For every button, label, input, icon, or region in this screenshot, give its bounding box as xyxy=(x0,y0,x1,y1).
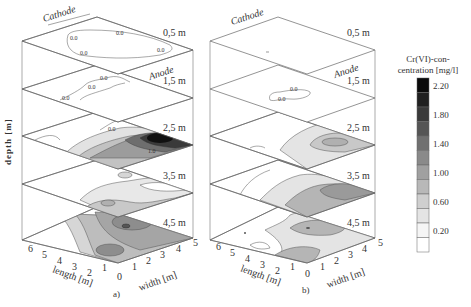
legend-tick-label: 0.60 xyxy=(433,197,449,207)
panel-a-label: a) xyxy=(113,289,120,299)
legend-title-line1: Cr(VI)-con- xyxy=(406,54,449,64)
legend-tick-label: 1.00 xyxy=(433,168,449,178)
svg-text:6: 6 xyxy=(216,241,221,252)
color-legend: Cr(VI)-con- centration [mg/l] 2.201.801.… xyxy=(398,54,459,252)
legend-swatch xyxy=(417,78,429,93)
legend-title-line2: centration [mg/l] xyxy=(398,65,459,75)
svg-text:4: 4 xyxy=(362,243,367,254)
panel-b-label: b) xyxy=(302,285,310,295)
panel-b: 0.0 0.0 Cathode Anode 0,5 m 1,5 m 2,5 m … xyxy=(210,6,383,295)
legend-swatch xyxy=(417,151,429,166)
plate-a-3-5m xyxy=(22,160,193,217)
legend-tick-label: 1.80 xyxy=(433,110,449,120)
legend-swatch xyxy=(417,107,429,122)
plate-b-2-5m xyxy=(210,112,375,169)
legend-swatch xyxy=(417,136,429,151)
cathode-label: Cathode xyxy=(41,3,77,24)
svg-text:4: 4 xyxy=(176,243,181,254)
legend-swatch xyxy=(417,238,429,253)
contour-label: 0.0 xyxy=(290,86,298,92)
svg-text:5: 5 xyxy=(42,249,47,260)
legend-swatch xyxy=(417,93,429,108)
legend-swatch xyxy=(417,194,429,209)
legend-tick-label: 2.20 xyxy=(433,81,449,91)
depth-label-1-5: 1,5 m xyxy=(347,75,370,86)
depth-label-1-5: 1,5 m xyxy=(163,75,186,86)
depth-label-3-5: 3,5 m xyxy=(347,170,370,181)
contour-label: 0.0 xyxy=(116,30,124,36)
contour-label: 0.0 xyxy=(278,96,286,102)
depth-label-2-5: 2,5 m xyxy=(163,122,186,133)
contour-label: 0.0 xyxy=(62,95,70,101)
svg-text:2: 2 xyxy=(334,255,339,266)
legend-swatch xyxy=(417,122,429,137)
contour-label: 1.0 xyxy=(148,148,156,154)
legend-tick-label: 1.40 xyxy=(433,139,449,149)
width-axis-label: width [m] xyxy=(137,269,178,293)
svg-text:1: 1 xyxy=(320,261,325,272)
depth-label-0-5: 0,5 m xyxy=(347,27,370,38)
contour-label: 0.0 xyxy=(88,84,96,90)
panel-a: 0.0 1.0 0.0 0.0 0.0 0.0 0.0 0.0 0.0 xyxy=(3,3,198,299)
plate-a-2-5m: 0.0 1.0 xyxy=(22,112,193,169)
contour-label: 0.0 xyxy=(108,126,116,132)
cr-concentration-figure: 0.0 1.0 0.0 0.0 0.0 0.0 0.0 0.0 0.0 xyxy=(0,0,471,307)
legend-swatch xyxy=(417,180,429,195)
svg-text:0: 0 xyxy=(117,271,122,282)
contour-label: 0.0 xyxy=(80,50,88,56)
contour-label: 0.0 xyxy=(157,47,165,53)
width-axis-label: width [m] xyxy=(325,266,366,290)
svg-text:3: 3 xyxy=(160,249,165,260)
depth-label-0-5: 0,5 m xyxy=(163,27,186,38)
contour-label: 0.0 xyxy=(70,35,78,41)
depth-label-2-5: 2,5 m xyxy=(347,122,370,133)
svg-text:3: 3 xyxy=(348,249,353,260)
depth-label-4-5: 4,5 m xyxy=(163,217,186,228)
depth-label-4-5: 4,5 m xyxy=(347,217,370,228)
legend-swatch xyxy=(417,209,429,224)
legend-swatch xyxy=(417,223,429,238)
svg-text:1: 1 xyxy=(132,261,137,272)
svg-text:5: 5 xyxy=(230,247,235,258)
svg-text:2: 2 xyxy=(146,255,151,266)
plate-b-3-5m xyxy=(210,160,375,217)
legend-color-bar: 2.201.801.401.000.600.20 xyxy=(417,78,449,252)
svg-text:5: 5 xyxy=(193,237,198,248)
legend-swatch xyxy=(417,165,429,180)
svg-text:6: 6 xyxy=(28,243,33,254)
svg-text:5: 5 xyxy=(378,237,383,248)
svg-text:0: 0 xyxy=(305,268,310,279)
plate-a-4-5m xyxy=(22,207,193,263)
svg-text:1: 1 xyxy=(290,261,295,272)
svg-text:4: 4 xyxy=(245,253,250,264)
svg-text:1: 1 xyxy=(102,262,107,273)
contour-label: 0.0 xyxy=(100,75,108,81)
depth-axis-label: depth [m] xyxy=(3,118,13,165)
legend-tick-label: 0.20 xyxy=(433,226,449,236)
depth-label-3-5: 3,5 m xyxy=(163,170,186,181)
